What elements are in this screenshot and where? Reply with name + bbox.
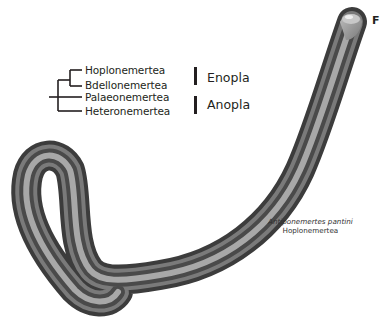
group-label-enopla: Enopla — [207, 71, 250, 85]
taxon-label-hoplonemertea: Hoplonemertea — [85, 64, 165, 76]
specimen-taxon: Hoplonemertea — [283, 226, 339, 235]
taxon-label-palaeonemertea: Palaeonemertea — [85, 91, 169, 103]
tree-branches — [0, 0, 380, 332]
specimen-caption: Antiponemertes pantini Hoplonemertea — [268, 217, 353, 235]
panel-label: F — [372, 14, 380, 27]
species-name: Antiponemertes pantini — [268, 217, 353, 226]
group-label-anopla: Anopla — [207, 98, 250, 112]
group-bar-enopla — [194, 67, 197, 85]
taxon-label-heteronemertea: Heteronemertea — [85, 105, 170, 117]
taxon-label-bdellonemertea: Bdellonemertea — [85, 79, 167, 91]
group-bar-anopla — [194, 96, 197, 114]
